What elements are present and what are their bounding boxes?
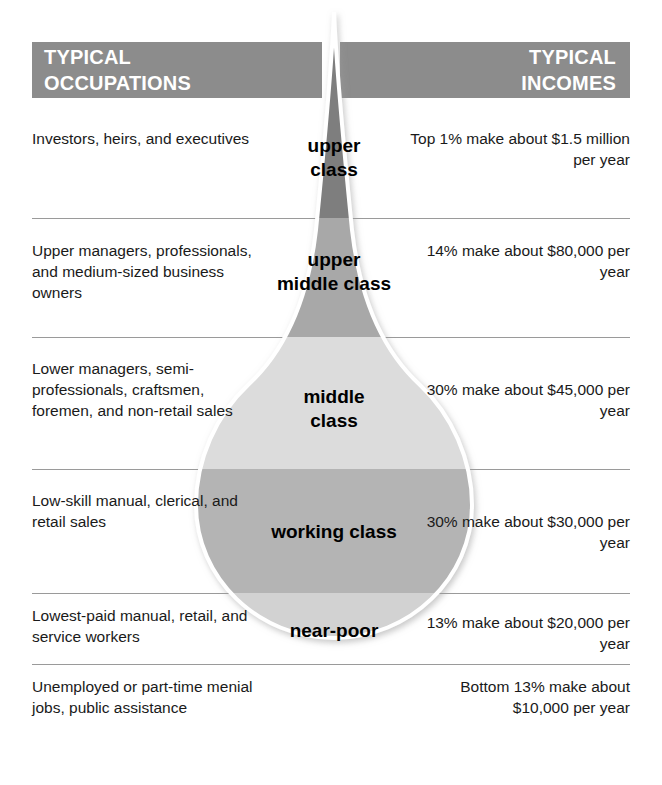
row-divider-2 bbox=[32, 337, 630, 338]
diagram-canvas: TYPICAL OCCUPATIONS TYPICAL INCOMES bbox=[0, 0, 662, 785]
header-occupations-line1: TYPICAL bbox=[44, 44, 334, 70]
class-label-near-poor: near-poor bbox=[214, 619, 454, 643]
income-cell-middle-class: 30% make about $45,000 per year bbox=[400, 379, 630, 421]
row-divider-1 bbox=[32, 218, 630, 219]
class-label-poor: poor bbox=[214, 686, 454, 710]
row-divider-3 bbox=[32, 469, 630, 470]
class-label-working-class: working class bbox=[214, 520, 454, 544]
header-label-occupations: TYPICAL OCCUPATIONS bbox=[44, 44, 334, 96]
class-label-upper-class: upper class bbox=[244, 134, 424, 182]
class-label-middle-class: middle class bbox=[244, 385, 424, 433]
occupations-cell-upper-class: Investors, heirs, and executives bbox=[32, 128, 262, 149]
class-label-upper-middle-class: upper middle class bbox=[234, 248, 434, 296]
row-divider-5 bbox=[32, 664, 630, 665]
header-incomes-line2: INCOMES bbox=[326, 70, 616, 96]
income-cell-upper-class: Top 1% make about $1.5 million per year bbox=[400, 128, 630, 170]
header-occupations-line2: OCCUPATIONS bbox=[44, 70, 334, 96]
occupations-cell-middle-class: Lower managers, semi-professionals, craf… bbox=[32, 358, 262, 421]
header-label-incomes: TYPICAL INCOMES bbox=[326, 44, 616, 96]
header-incomes-line1: TYPICAL bbox=[326, 44, 616, 70]
income-cell-upper-middle-class: 14% make about $80,000 per year bbox=[400, 240, 630, 282]
occupations-cell-upper-middle-class: Upper managers, professionals, and mediu… bbox=[32, 240, 262, 303]
row-divider-4 bbox=[32, 593, 630, 594]
